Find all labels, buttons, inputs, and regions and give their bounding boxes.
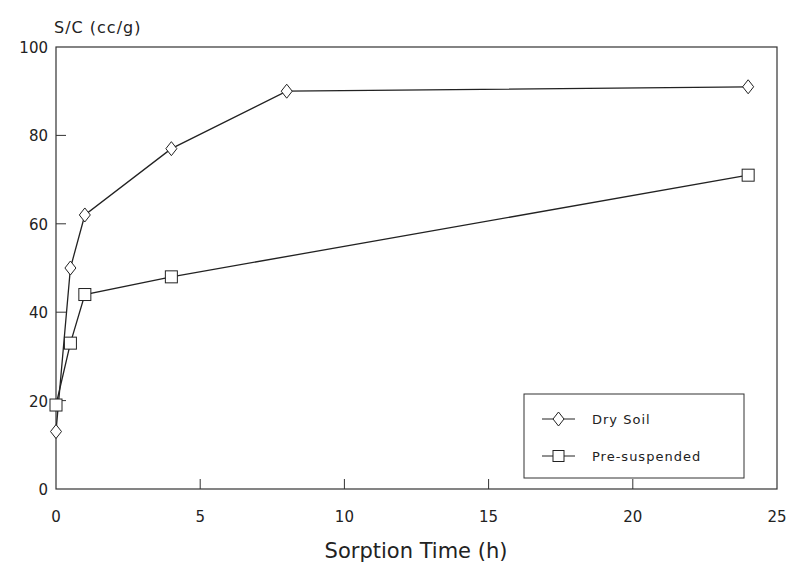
diamond-marker-icon [65,261,76,275]
y-tick-label: 80 [29,127,48,145]
series-pre-suspended [50,169,754,411]
x-tick-label: 5 [195,508,205,526]
diamond-marker-icon [79,208,90,222]
x-tick-label: 10 [335,508,354,526]
square-marker-icon [553,451,564,462]
x-tick-label: 0 [51,508,61,526]
diamond-marker-icon [743,80,754,94]
x-tick-label: 20 [623,508,642,526]
y-tick-label: 0 [38,481,48,499]
x-axis-ticks: 0510152025 [51,479,786,526]
x-tick-label: 15 [479,508,498,526]
data-series [50,80,754,439]
x-tick-label: 25 [767,508,786,526]
diamond-marker-icon [281,84,292,98]
y-tick-label: 60 [29,216,48,234]
legend: Dry Soil Pre-suspended [524,394,744,478]
diamond-marker-icon [51,425,62,439]
legend-item-dry-soil: Dry Soil [542,412,651,427]
square-marker-icon [742,169,754,181]
y-tick-label: 40 [29,304,48,322]
chart: 020406080100 0510152025 S/C (cc/g) Sorpt… [0,0,799,580]
y-axis-label: S/C (cc/g) [54,18,141,37]
legend-label-pre-suspended: Pre-suspended [592,449,701,464]
square-marker-icon [79,289,91,301]
y-tick-label: 20 [29,393,48,411]
diamond-marker-icon [166,142,177,156]
series-dry-soil [51,80,754,439]
x-axis-label: Sorption Time (h) [325,539,508,563]
legend-box [524,394,744,478]
square-marker-icon [165,271,177,283]
legend-label-dry-soil: Dry Soil [592,412,651,427]
y-tick-label: 100 [19,39,48,57]
square-marker-icon [50,399,62,411]
square-marker-icon [64,337,76,349]
